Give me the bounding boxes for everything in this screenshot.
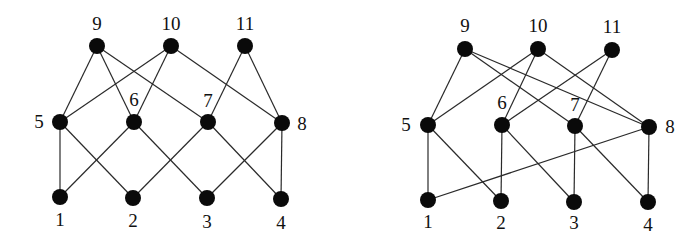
node-label: 3 <box>202 211 212 232</box>
edge-10-6 <box>134 46 171 122</box>
node-label: 7 <box>203 90 213 111</box>
node-4 <box>640 194 656 210</box>
nodes-left <box>52 38 290 207</box>
node-10 <box>163 38 179 54</box>
node-label: 5 <box>401 114 411 135</box>
node-10 <box>530 41 546 57</box>
edge-7-4 <box>575 126 648 202</box>
node-11 <box>237 38 253 54</box>
node-label: 1 <box>423 211 433 232</box>
node-label: 11 <box>236 13 254 34</box>
node-2 <box>125 190 141 206</box>
node-7 <box>200 114 216 130</box>
node-label: 7 <box>570 94 580 115</box>
edge-10-5 <box>60 46 171 122</box>
edges-left <box>60 46 282 199</box>
node-label: 2 <box>128 210 138 231</box>
node-2 <box>493 193 509 209</box>
node-6 <box>126 114 142 130</box>
node-label: 8 <box>665 116 675 137</box>
node-label: 4 <box>276 212 286 233</box>
node-label: 1 <box>55 209 65 230</box>
node-8 <box>274 115 290 131</box>
node-label: 2 <box>496 212 506 233</box>
edge-8-4 <box>281 123 282 199</box>
edge-11-7 <box>208 46 245 122</box>
node-6 <box>494 117 510 133</box>
node-5 <box>420 117 436 133</box>
edges-right <box>428 49 649 202</box>
node-label: 6 <box>497 92 507 113</box>
node-4 <box>273 191 289 207</box>
node-label: 5 <box>34 111 44 132</box>
node-label: 10 <box>162 13 181 34</box>
edge-7-3 <box>574 126 575 202</box>
edge-11-7 <box>575 50 612 126</box>
node-label: 11 <box>603 16 621 37</box>
edge-8-3 <box>207 123 282 198</box>
nodes-right <box>420 41 657 210</box>
edge-11-8 <box>245 46 282 123</box>
graph-canvas: 1234567891011 1234567891011 <box>0 0 700 245</box>
node-label: 4 <box>643 214 653 235</box>
edge-8-4 <box>648 127 649 202</box>
edge-5-2 <box>428 125 501 201</box>
edge-10-6 <box>502 49 538 125</box>
node-label: 6 <box>129 89 139 110</box>
node-5 <box>52 114 68 130</box>
graph-right: 1234567891011 <box>401 15 675 235</box>
node-9 <box>89 38 105 54</box>
edge-9-5 <box>428 49 465 125</box>
node-9 <box>457 41 473 57</box>
edge-8-1 <box>428 127 649 200</box>
node-7 <box>567 118 583 134</box>
node-3 <box>199 190 215 206</box>
node-3 <box>566 194 582 210</box>
edge-6-2 <box>501 125 502 201</box>
edge-10-5 <box>428 49 538 125</box>
node-label: 9 <box>460 15 470 36</box>
node-1 <box>52 189 68 205</box>
node-label: 8 <box>297 113 307 134</box>
node-label: 3 <box>569 212 579 233</box>
node-1 <box>420 192 436 208</box>
node-11 <box>604 42 620 58</box>
edge-9-5 <box>60 46 97 122</box>
node-8 <box>641 119 657 135</box>
node-label: 10 <box>529 15 548 36</box>
node-label: 9 <box>92 13 102 34</box>
graph-left: 1234567891011 <box>34 13 307 233</box>
